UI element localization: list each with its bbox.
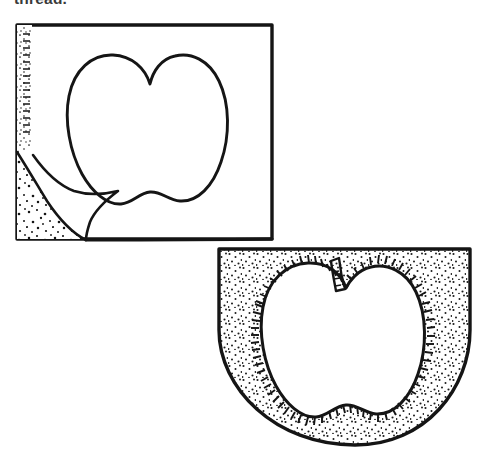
figure-traced-apple-on-fabric [0, 0, 300, 260]
folded-corner-flap-fill [14, 148, 94, 244]
fabric-rectangle [17, 25, 272, 239]
apple-applique-fill [261, 263, 424, 417]
apple-outline [67, 55, 227, 204]
figure-appliqued-apple-pocket [200, 238, 477, 472]
edge-tick-marks [23, 34, 30, 132]
instruction-diagram-page: thread. [0, 0, 477, 472]
stipple-band [15, 23, 37, 155]
